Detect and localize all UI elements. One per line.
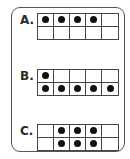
problem-b-label: B. [20,70,34,82]
ten-frame-cell [102,83,118,96]
ten-frame-cell [38,125,54,138]
ten-frame-cell [86,27,102,40]
ten-frame-cell [70,27,86,40]
problem-a-label: A. [20,14,34,26]
ten-frame-cell [70,14,86,27]
ten-frame-cell [86,83,102,96]
ten-frame-cell [70,125,86,138]
counter-dot-icon [74,140,81,147]
ten-frame-cell [54,125,70,138]
ten-frame-cell [102,125,118,138]
ten-frame-cell [54,27,70,40]
ten-frame-cell [38,138,54,151]
ten-frame-b [37,69,119,96]
ten-frame-cell [54,138,70,151]
counter-dot-icon [90,16,97,23]
ten-frame-a [37,13,119,40]
counter-dot-icon [42,16,49,23]
ten-frame-cell [54,14,70,27]
ten-frame-cell [102,70,118,83]
problem-c-label: C. [20,125,33,137]
counter-dot-icon [42,72,49,79]
counter-dot-icon [58,85,65,92]
ten-frame-cell [102,138,118,151]
counter-dot-icon [90,127,97,134]
ten-frame-cell [54,70,70,83]
ten-frame-cell [38,83,54,96]
ten-frame-cell [38,14,54,27]
counter-dot-icon [58,16,65,23]
counter-dot-icon [90,85,97,92]
ten-frame-cell [38,27,54,40]
ten-frame-cell [86,125,102,138]
ten-frame-cell [102,14,118,27]
ten-frame-cell [70,70,86,83]
counter-dot-icon [58,140,65,147]
counter-dot-icon [107,85,114,92]
ten-frame-cell [86,138,102,151]
counter-dot-icon [90,140,97,147]
ten-frame-cell [86,14,102,27]
ten-frame-c [37,124,119,151]
counter-dot-icon [74,16,81,23]
counter-dot-icon [74,85,81,92]
ten-frame-cell [38,70,54,83]
ten-frame-cell [102,27,118,40]
counter-dot-icon [74,127,81,134]
ten-frame-cell [70,138,86,151]
ten-frame-cell [70,83,86,96]
ten-frame-cell [54,83,70,96]
ten-frame-cell [86,70,102,83]
counter-dot-icon [58,127,65,134]
counter-dot-icon [42,85,49,92]
